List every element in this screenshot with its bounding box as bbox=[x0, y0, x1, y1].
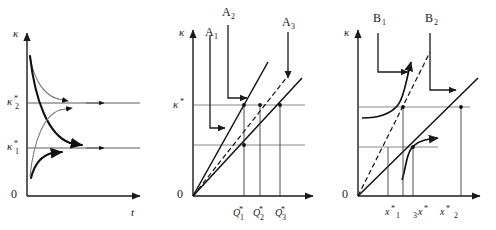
panel-a-trajectory-rise-lower bbox=[31, 153, 52, 178]
svg-text:A: A bbox=[205, 25, 214, 39]
panel-c-xlabel-x1: x * 1 bbox=[384, 204, 400, 220]
svg-text:x: x bbox=[417, 206, 423, 217]
panel-b-point-lower bbox=[242, 143, 246, 147]
panel-a-trajectory-rise-upper-arrow bbox=[60, 108, 72, 110]
three-panel-phase-figure: κ t 0 κ * 2 κ * 1 bbox=[0, 0, 496, 230]
panel-a-upper-level-label: κ * 2 bbox=[7, 94, 19, 111]
svg-text:x: x bbox=[439, 206, 445, 217]
svg-text:A: A bbox=[282, 15, 291, 29]
svg-text:κ: κ bbox=[7, 95, 13, 107]
svg-text:2: 2 bbox=[454, 211, 458, 220]
panel-c-point-x1 bbox=[401, 105, 405, 109]
panel-c-upper-s-curve bbox=[362, 70, 409, 118]
panel-c-lower-s-curve-arrow bbox=[430, 138, 438, 139]
panel-b-pointer-a1 bbox=[210, 35, 225, 128]
panel-b-label-a1: A 1 bbox=[205, 25, 218, 41]
panel-b-y-axis-label: κ bbox=[179, 26, 185, 38]
svg-text:*: * bbox=[446, 204, 450, 213]
panel-c-lower-s-curve bbox=[402, 139, 430, 180]
svg-text:2: 2 bbox=[434, 18, 438, 27]
panel-s-curves: B 1 B 2 κ 0 x * 1 x * 3 x * bbox=[330, 0, 496, 230]
svg-text:*: * bbox=[180, 97, 184, 106]
panel-b-origin-label: 0 bbox=[177, 187, 183, 201]
panel-b-xlabel-q1: Q * 1 bbox=[233, 205, 244, 222]
panel-linear-rays: A 1 A 2 A 3 κ 0 κ * Q * 1 bbox=[165, 0, 330, 230]
panel-b-point-q2 bbox=[258, 103, 262, 107]
svg-text:2: 2 bbox=[15, 102, 19, 111]
svg-text:κ: κ bbox=[7, 140, 13, 152]
panel-a-y-axis-label: κ bbox=[13, 27, 19, 39]
panel-a-origin-label: 0 bbox=[11, 187, 17, 201]
panel-c-diagonal-solid bbox=[358, 78, 478, 196]
panel-b-ray-steep bbox=[193, 62, 268, 196]
panel-b-kappa-star-label: κ * bbox=[173, 97, 184, 110]
panel-c-upper-s-curve-arrow bbox=[409, 62, 411, 70]
svg-text:1: 1 bbox=[382, 18, 386, 27]
svg-text:A: A bbox=[222, 5, 231, 19]
panel-b-label-a2: A 2 bbox=[222, 5, 235, 21]
svg-text:2: 2 bbox=[260, 213, 264, 222]
panel-a-lower-level-label: κ * 1 bbox=[7, 139, 19, 156]
panel-c-pointer-b1 bbox=[378, 33, 408, 72]
svg-text:B: B bbox=[373, 11, 381, 25]
panel-c-xlabel-x2: x * 2 bbox=[439, 204, 458, 220]
panel-c-point-x2 bbox=[459, 105, 463, 109]
panel-b-point-q1 bbox=[242, 103, 246, 107]
panel-c-label-b2: B 2 bbox=[425, 11, 438, 27]
svg-text:*: * bbox=[391, 204, 395, 213]
panel-a-x-axis-label: t bbox=[131, 206, 135, 218]
panel-b-xlabel-q2: Q * 2 bbox=[253, 205, 264, 222]
svg-text:B: B bbox=[425, 11, 433, 25]
svg-text:1: 1 bbox=[396, 211, 400, 220]
panel-b-xlabel-q3: Q * 3 bbox=[275, 205, 286, 222]
panel-time-paths: κ t 0 κ * 2 κ * 1 bbox=[0, 0, 165, 230]
svg-text:1: 1 bbox=[240, 213, 244, 222]
panel-c-diagonal-dashed bbox=[358, 52, 430, 196]
svg-text:3: 3 bbox=[413, 211, 417, 220]
svg-text:3: 3 bbox=[291, 22, 295, 31]
panel-b-ray-dashed bbox=[193, 72, 291, 196]
svg-text:3: 3 bbox=[282, 213, 286, 222]
svg-text:*: * bbox=[424, 204, 428, 213]
panel-c-y-axis-label: κ bbox=[344, 26, 350, 38]
panel-a-trajectory-rise-lower-arrow bbox=[52, 152, 62, 153]
panel-b-point-q3 bbox=[278, 103, 282, 107]
panel-c-xlabel-x3: x * 3 bbox=[413, 204, 428, 220]
svg-text:1: 1 bbox=[15, 147, 19, 156]
panel-c-label-b1: B 1 bbox=[373, 11, 386, 27]
svg-text:κ: κ bbox=[173, 98, 179, 110]
svg-text:x: x bbox=[384, 206, 390, 217]
svg-text:1: 1 bbox=[214, 32, 218, 41]
panel-b-pointer-a2 bbox=[228, 25, 247, 98]
panel-c-pointer-b2 bbox=[430, 33, 456, 90]
panel-c-point-x3 bbox=[411, 145, 415, 149]
svg-text:2: 2 bbox=[231, 12, 235, 21]
panel-a-trajectory-decay-upper-arrow bbox=[58, 99, 68, 101]
panel-a-trajectory-decay-lower bbox=[30, 56, 70, 143]
panel-c-origin-label: 0 bbox=[342, 187, 348, 201]
panel-a-trajectory-decay-lower-arrow bbox=[70, 143, 82, 145]
panel-b-label-a3: A 3 bbox=[282, 15, 295, 31]
